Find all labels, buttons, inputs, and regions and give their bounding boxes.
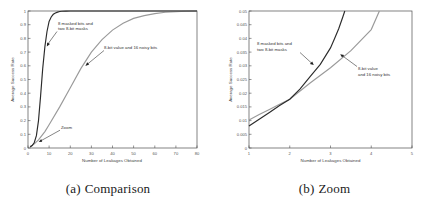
caption-b: (b)Zoom — [216, 181, 433, 197]
plot-b: 0 0.005 0.01 0.015 0.02 0.025 0.03 0.035 — [216, 0, 433, 168]
plot-frame-a — [28, 11, 197, 148]
y-tick-label: 0.8 — [20, 36, 26, 41]
caption-number: (b) — [299, 181, 315, 196]
x-axis-a: 0 10 20 30 40 50 60 70 80 — [27, 146, 200, 156]
annotation-leader-line — [300, 53, 312, 64]
plot-frame-b — [249, 11, 412, 148]
annotation-line: 8-bit value — [358, 66, 378, 71]
y-axis-title-b: Average Success Rate — [228, 57, 233, 102]
chart-b-svg: 0 0.005 0.01 0.015 0.02 0.025 0.03 0.035 — [216, 0, 433, 168]
arrow-head-icon — [85, 62, 89, 66]
y-tick-label: 0.3 — [20, 104, 26, 109]
y-tick-label: 0.035 — [237, 50, 248, 55]
y-tick-label: 0.4 — [20, 91, 26, 96]
annotation-leader-line — [48, 32, 58, 45]
annotation-line: two 8-bit masks — [58, 26, 88, 31]
x-tick-label: 4 — [370, 151, 373, 156]
x-tick-label: 3 — [329, 151, 332, 156]
x-tick-label: 80 — [195, 151, 200, 156]
series-masked-bits-a — [30, 11, 197, 147]
y-tick-label: 0.015 — [237, 104, 248, 109]
annotation-line: and 16 noisy bits — [358, 72, 390, 77]
y-tick-label: 0.1 — [20, 132, 26, 137]
x-tick-label: 40 — [110, 151, 115, 156]
annotation-line: two 8-bit masks — [257, 47, 287, 52]
y-tick-label: 0.7 — [20, 50, 26, 55]
caption-text: Comparison — [85, 181, 151, 196]
y-tick-label: 0.5 — [20, 77, 26, 82]
x-tick-label: 0 — [27, 151, 30, 156]
subfigure-b: 0 0.005 0.01 0.015 0.02 0.025 0.03 0.035 — [216, 0, 433, 201]
y-tick-label: 0.2 — [20, 118, 26, 123]
y-tick-label: 0.9 — [20, 22, 26, 27]
x-tick-label: 10 — [47, 151, 52, 156]
x-axis-title-a: Number of Leakages Obtained — [82, 158, 142, 163]
y-tick-label: 1 — [24, 9, 27, 14]
x-axis-title-b: Number of Leakages Obtained — [301, 158, 361, 163]
series-noisy-bits-a — [30, 11, 197, 147]
annotation-leader-line — [342, 56, 357, 67]
plot-a: 0 0.1 0.2 0.3 0.4 0.5 0.6 0.7 0. — [0, 0, 216, 168]
y-tick-label: 0.04 — [239, 36, 248, 41]
y-tick-label: 0.045 — [237, 22, 248, 27]
x-tick-label: 60 — [153, 151, 158, 156]
noisy-bits-annotation-a: 8-bit value and 16 noisy bits — [85, 45, 157, 66]
chart-a-svg: 0 0.1 0.2 0.3 0.4 0.5 0.6 0.7 0. — [0, 0, 216, 168]
noisy-bits-annotation-b: 8-bit value and 16 noisy bits — [340, 54, 390, 76]
x-tick-label: 1 — [248, 151, 251, 156]
x-tick-label: 70 — [174, 151, 179, 156]
y-axis-title-a: Average Success Rate — [10, 57, 15, 102]
x-tick-label: 30 — [89, 151, 94, 156]
masked-bits-annotation-a: 8 masked bits and two 8-bit masks — [47, 21, 94, 47]
series-masked-bits-b — [249, 11, 345, 126]
y-tick-label: 0.05 — [239, 9, 248, 14]
y-tick-label: 0.6 — [20, 63, 26, 68]
x-tick-label: 5 — [411, 151, 414, 156]
caption-a: (a)Comparison — [0, 181, 216, 197]
masked-bits-annotation-b: 8 masked bits and two 8-bit masks — [257, 41, 314, 65]
y-tick-label: 0.025 — [237, 77, 248, 82]
y-tick-label: 0.03 — [239, 63, 248, 68]
annotation-line: Zoom — [61, 125, 72, 130]
y-tick-label: 0.01 — [239, 118, 248, 123]
x-tick-label: 20 — [68, 151, 73, 156]
figure-row: 0 0.1 0.2 0.3 0.4 0.5 0.6 0.7 0. — [0, 0, 433, 201]
annotation-line: 8-bit value and 16 noisy bits — [104, 45, 157, 50]
x-tick-label: 50 — [131, 151, 136, 156]
caption-number: (a) — [66, 181, 81, 196]
x-axis-b: 1 2 3 4 5 — [248, 146, 414, 156]
caption-text: Zoom — [318, 181, 350, 196]
annotation-leader-line — [41, 130, 61, 141]
y-axis-a: 0 0.1 0.2 0.3 0.4 0.5 0.6 0.7 0. — [20, 9, 30, 151]
y-tick-label: 0.02 — [239, 91, 248, 96]
subfigure-a: 0 0.1 0.2 0.3 0.4 0.5 0.6 0.7 0. — [0, 0, 216, 201]
x-tick-label: 2 — [289, 151, 292, 156]
y-tick-label: 0.005 — [237, 132, 248, 137]
annotation-leader-line — [87, 51, 104, 65]
annotation-line: 8 masked bits and — [257, 41, 292, 46]
annotation-line: 8 masked bits and — [58, 21, 93, 26]
